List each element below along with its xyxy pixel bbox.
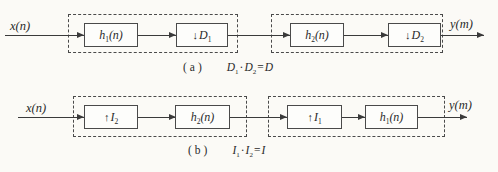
output-signal-label-a: y(m)	[450, 18, 473, 31]
flow-line	[5, 35, 84, 36]
block-label: h1(n)	[99, 29, 123, 41]
caption-b: (b) I1·I2=I	[188, 145, 265, 157]
interpolation-subscript: 2	[114, 117, 118, 126]
caption-b-tag: (b)	[188, 145, 210, 157]
block-label: h2(n)	[305, 29, 329, 41]
flow-line	[230, 117, 287, 118]
filter-argument: (n)	[109, 28, 123, 42]
output-signal-label-b: y(m)	[449, 99, 472, 112]
decimation-subscript: 1	[208, 35, 212, 44]
decimation-symbol: D	[412, 28, 421, 42]
caption-a: (a) D1·D2=D	[183, 62, 273, 74]
block-label: ↓D2	[405, 29, 424, 41]
formula-term: I	[261, 144, 265, 156]
block-diagram-figure: x(n) h1(n) ↓D1 h2(n) ↓D2 y(m) (a) D1·D2=…	[0, 0, 498, 172]
block-label: h2(n)	[191, 111, 215, 123]
formula-term: D	[265, 61, 273, 73]
arrowhead-icon	[460, 114, 467, 120]
filter-argument: (n)	[200, 110, 214, 124]
formula-term: D	[227, 61, 235, 73]
arrowhead-icon	[477, 32, 484, 38]
block-label: ↓D1	[193, 29, 212, 41]
filter-argument: (n)	[315, 28, 329, 42]
filter-block-h2-b: h2(n)	[175, 105, 230, 129]
caption-a-tag: (a)	[183, 62, 205, 74]
block-label: h1(n)	[380, 111, 404, 123]
upsampler-block-i2: ↑I2	[84, 105, 138, 129]
formula-operator: =	[256, 61, 265, 73]
input-signal-label-a: x(n)	[10, 20, 30, 33]
filter-block-h2-a: h2(n)	[290, 23, 344, 47]
block-label: ↑I1	[307, 111, 321, 123]
arrowhead-icon	[280, 114, 287, 120]
downsampler-block-d2: ↓D2	[388, 23, 441, 47]
input-signal-label-b: x(n)	[26, 102, 46, 115]
arrowhead-icon	[381, 32, 388, 38]
arrowhead-icon	[77, 32, 84, 38]
decimation-subscript: 2	[420, 35, 424, 44]
decimation-symbol: D	[199, 28, 208, 42]
filter-block-h1-b: h1(n)	[365, 105, 418, 129]
flow-line	[228, 35, 290, 36]
arrowhead-icon	[283, 32, 290, 38]
arrowhead-icon	[169, 32, 176, 38]
filter-block-h1-a: h1(n)	[84, 23, 138, 47]
upsampler-block-i1: ↑I1	[287, 105, 342, 129]
arrowhead-icon	[77, 114, 84, 120]
formula-term: D	[244, 61, 252, 73]
caption-a-formula: D1·D2=D	[227, 62, 273, 74]
arrowhead-icon	[358, 114, 365, 120]
flow-line	[18, 117, 84, 118]
filter-argument: (n)	[389, 110, 403, 124]
interpolation-subscript: 1	[318, 117, 322, 126]
downsampler-block-d1: ↓D1	[176, 23, 228, 47]
block-label: ↑I2	[104, 111, 118, 123]
caption-b-formula: I1·I2=I	[232, 145, 265, 157]
